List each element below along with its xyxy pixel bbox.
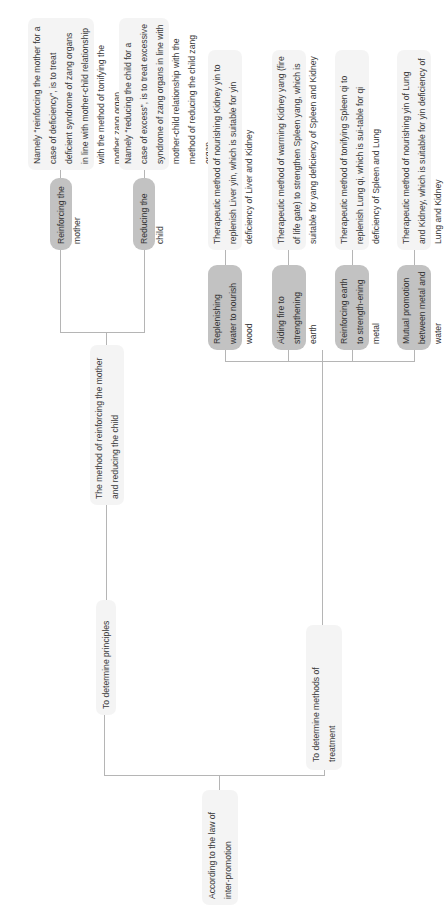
connector bbox=[144, 170, 145, 178]
connector bbox=[225, 361, 415, 362]
method-description-metal-water: Therapeutic method of nourishing yin of … bbox=[397, 50, 431, 250]
connector bbox=[219, 776, 220, 790]
method-node-water-wood: Replenishing water to nourish wood bbox=[208, 265, 242, 350]
connector bbox=[352, 250, 353, 265]
connector bbox=[288, 350, 289, 362]
connector bbox=[414, 250, 415, 265]
connector bbox=[322, 350, 323, 625]
reducing-child-node: Reducing the child bbox=[133, 178, 155, 250]
connector bbox=[144, 250, 145, 333]
connector bbox=[414, 350, 415, 362]
reinforcing-mother-description: Namely “reinforcing the mother for a cas… bbox=[28, 18, 94, 170]
treatment-node: To determine methods of treatment bbox=[306, 625, 342, 770]
reducing-child-description: Namely “reducing the child for a case of… bbox=[119, 18, 169, 170]
connector bbox=[104, 775, 324, 776]
mind-map: According to the law of inter-promotion … bbox=[0, 0, 447, 905]
method-node-earth-metal: Reinforcing earth to strength-ening meta… bbox=[335, 265, 369, 350]
method-node-fire-earth: Aiding fire to strengthening earth bbox=[272, 265, 306, 350]
connector bbox=[225, 250, 226, 265]
connector bbox=[60, 332, 144, 333]
method-description-water-wood: Therapeutic method of nourishing Kidney … bbox=[208, 50, 242, 250]
connector bbox=[104, 715, 105, 776]
reinforce-reduce-method-node: The method of reinforcing the mother and… bbox=[90, 345, 124, 505]
connector bbox=[288, 250, 289, 265]
connector bbox=[352, 350, 353, 362]
connector bbox=[60, 170, 61, 178]
method-description-fire-earth: Therapeutic method of warming Kidney yan… bbox=[272, 50, 306, 250]
principles-node: To determine principles bbox=[96, 600, 116, 715]
connector bbox=[106, 333, 107, 345]
connector bbox=[324, 770, 325, 776]
reinforcing-mother-node: Reinforcing the mother bbox=[50, 178, 72, 250]
root-node: According to the law of inter-promotion bbox=[202, 790, 238, 905]
method-node-metal-water: Mutual promotion between metal and water bbox=[397, 265, 431, 350]
connector bbox=[106, 505, 107, 600]
method-description-earth-metal: Therapeutic method of tonifying Spleen q… bbox=[335, 50, 369, 250]
connector bbox=[60, 250, 61, 333]
connector bbox=[225, 350, 226, 362]
